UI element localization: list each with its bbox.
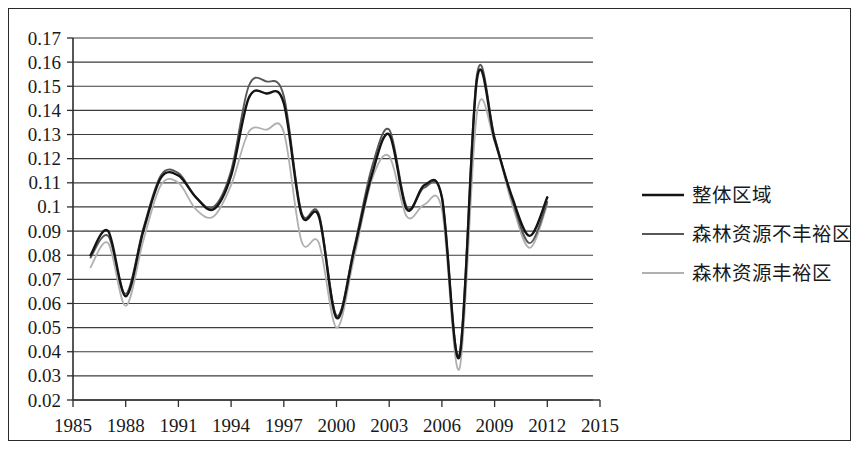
x-axis-tick-label: 1991 xyxy=(159,415,197,436)
y-axis-tick-label: 0.06 xyxy=(28,293,61,314)
legend-label: 整体区域 xyxy=(692,185,772,206)
gridlines xyxy=(73,38,593,400)
chart-figure: 0.170.160.150.140.130.120.110.10.090.080… xyxy=(0,0,859,449)
x-axis-tick-label: 2012 xyxy=(528,415,566,436)
y-axis-tick-label: 0.09 xyxy=(28,221,61,242)
x-axis-tick-label: 2015 xyxy=(581,415,619,436)
line-chart: 0.170.160.150.140.130.120.110.10.090.080… xyxy=(0,0,859,449)
x-axis-tick-label: 1997 xyxy=(265,415,303,436)
x-axis-tick-label: 2000 xyxy=(318,415,356,436)
legend-label: 森林资源不丰裕区 xyxy=(692,224,852,245)
y-axis-tick-label: 0.04 xyxy=(28,341,62,362)
chart-legend: 整体区域森林资源不丰裕区森林资源丰裕区 xyxy=(642,185,852,284)
y-axis-tick-label: 0.03 xyxy=(28,365,61,386)
x-axis-tick-label: 2003 xyxy=(370,415,408,436)
legend-label: 森林资源丰裕区 xyxy=(692,263,832,284)
x-axis-tick-label: 1994 xyxy=(212,415,251,436)
y-axis-tick-label: 0.11 xyxy=(28,172,61,193)
y-axis-tick-label: 0.08 xyxy=(28,245,61,266)
series-line xyxy=(91,99,548,370)
y-axis-tick-label: 0.02 xyxy=(28,390,61,411)
y-axis-tick-label: 0.15 xyxy=(28,76,61,97)
y-axis-tick-label: 0.13 xyxy=(28,124,61,145)
series-line xyxy=(91,69,548,358)
y-axis-tick-label: 0.16 xyxy=(28,52,61,73)
y-axis-tick-label: 0.12 xyxy=(28,148,61,169)
x-axis-tick-label: 2009 xyxy=(476,415,514,436)
y-axis-tick-label: 0.07 xyxy=(28,269,61,290)
y-axis-tick-label: 0.1 xyxy=(37,196,61,217)
x-axis-tick-label: 1985 xyxy=(54,415,92,436)
y-axis-tick-labels: 0.170.160.150.140.130.120.110.10.090.080… xyxy=(28,28,73,411)
y-axis-tick-label: 0.17 xyxy=(28,28,61,49)
x-axis-tick-label: 1988 xyxy=(107,415,145,436)
y-axis-tick-label: 0.05 xyxy=(28,317,61,338)
series-line xyxy=(91,65,548,356)
y-axis-tick-label: 0.14 xyxy=(28,100,62,121)
x-axis-tick-label: 2006 xyxy=(423,415,461,436)
x-axis-tick-labels: 1985198819911994199720002003200620092012… xyxy=(54,400,619,436)
